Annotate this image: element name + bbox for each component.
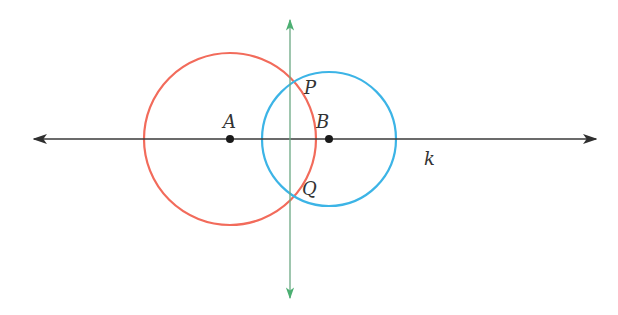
point-a-dot: [226, 135, 234, 143]
label-k: k: [424, 150, 435, 168]
label-p: P: [304, 79, 316, 97]
label-b: B: [316, 113, 329, 131]
geometry-diagram: [0, 0, 618, 315]
label-a: A: [223, 113, 236, 131]
point-b-dot: [325, 135, 333, 143]
label-q: Q: [302, 180, 317, 198]
